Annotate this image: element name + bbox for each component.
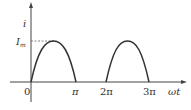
y-axis-label: i — [23, 18, 26, 29]
tick-3pi: 3π — [143, 86, 156, 97]
waveform-diagram: i Im 0 π 2π 3π ωt — [0, 0, 191, 110]
tick-2pi: 2π — [100, 86, 113, 97]
half-wave-2 — [106, 41, 149, 82]
origin-label: 0 — [24, 86, 30, 97]
peak-label: Im — [15, 36, 26, 48]
half-wave-1 — [31, 41, 76, 82]
tick-pi: π — [71, 86, 79, 97]
x-axis-label: ωt — [168, 86, 181, 97]
y-axis-arrow-icon — [29, 2, 33, 8]
x-axis-arrow-icon — [181, 80, 187, 84]
